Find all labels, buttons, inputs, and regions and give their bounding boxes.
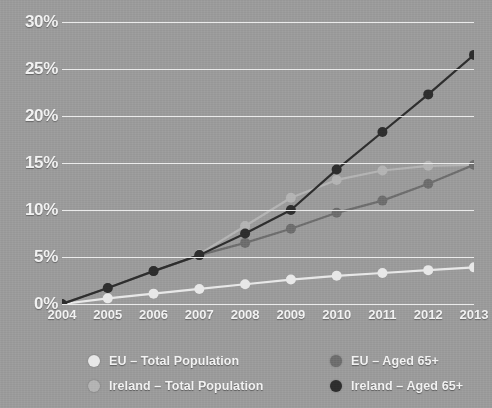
- legend-marker-icon: [88, 380, 100, 392]
- plot-area: [62, 22, 474, 304]
- series-line: [62, 267, 474, 304]
- data-point: [194, 284, 204, 294]
- data-point: [377, 268, 387, 278]
- gridline: [62, 304, 474, 305]
- legend-marker-icon: [330, 355, 342, 367]
- data-point: [103, 293, 113, 303]
- x-axis-tick-label: 2012: [414, 308, 443, 321]
- gridline: [62, 69, 474, 70]
- chart-legend: EU – Total PopulationIreland – Total Pop…: [0, 348, 492, 406]
- data-point: [149, 266, 159, 276]
- legend-column: EU – Total PopulationIreland – Total Pop…: [88, 348, 263, 398]
- legend-label: Ireland – Aged 65+: [351, 379, 463, 393]
- series-3: [62, 50, 474, 304]
- legend-item[interactable]: EU – Total Population: [88, 348, 263, 373]
- data-point: [423, 179, 433, 189]
- data-point: [240, 229, 250, 239]
- data-point: [103, 283, 113, 293]
- x-axis-tick-label: 2008: [231, 308, 260, 321]
- legend-marker-icon: [88, 355, 100, 367]
- data-point: [332, 165, 342, 175]
- x-axis-tick-label: 2006: [139, 308, 168, 321]
- x-axis-tick-label: 2011: [368, 308, 396, 321]
- legend-label: EU – Total Population: [109, 354, 239, 368]
- y-axis-tick-label: 30%: [25, 13, 58, 30]
- data-point: [469, 160, 474, 170]
- data-point: [423, 265, 433, 275]
- series-line: [62, 55, 474, 304]
- data-point: [377, 196, 387, 206]
- x-axis-tick-label: 2005: [93, 308, 122, 321]
- legend-item[interactable]: Ireland – Aged 65+: [330, 373, 463, 398]
- data-point: [286, 224, 296, 234]
- data-point: [377, 166, 387, 176]
- data-point: [286, 275, 296, 285]
- data-point: [286, 193, 296, 203]
- data-point: [240, 279, 250, 289]
- data-point: [194, 250, 204, 260]
- legend-label: Ireland – Total Population: [109, 379, 263, 393]
- x-axis-tick-label: 2013: [460, 308, 489, 321]
- y-axis: 0%5%10%15%20%25%30%: [0, 22, 58, 304]
- chart-container: 0%5%10%15%20%25%30% 20042005200620072008…: [0, 0, 492, 408]
- gridline: [62, 22, 474, 23]
- data-point: [377, 127, 387, 137]
- legend-item[interactable]: Ireland – Total Population: [88, 373, 263, 398]
- gridline: [62, 116, 474, 117]
- data-point: [149, 289, 159, 299]
- legend-column: EU – Aged 65+Ireland – Aged 65+: [330, 348, 463, 398]
- data-point: [332, 271, 342, 281]
- x-axis-tick-label: 2004: [48, 308, 77, 321]
- legend-item[interactable]: EU – Aged 65+: [330, 348, 463, 373]
- y-axis-tick-label: 5%: [34, 248, 58, 265]
- data-point: [423, 89, 433, 99]
- data-point: [469, 262, 474, 272]
- x-axis-tick-label: 2007: [185, 308, 214, 321]
- data-point: [240, 238, 250, 248]
- data-point: [332, 175, 342, 185]
- gridline: [62, 210, 474, 211]
- y-axis-tick-label: 15%: [25, 154, 58, 171]
- y-axis-tick-label: 25%: [25, 60, 58, 77]
- y-axis-tick-label: 20%: [25, 107, 58, 124]
- legend-marker-icon: [330, 380, 342, 392]
- y-axis-tick-label: 10%: [25, 201, 58, 218]
- gridline: [62, 257, 474, 258]
- x-axis-tick-label: 2009: [276, 308, 305, 321]
- gridline: [62, 163, 474, 164]
- x-axis: 2004200520062007200820092010201120122013: [62, 308, 474, 330]
- x-axis-tick-label: 2010: [322, 308, 351, 321]
- legend-label: EU – Aged 65+: [351, 354, 439, 368]
